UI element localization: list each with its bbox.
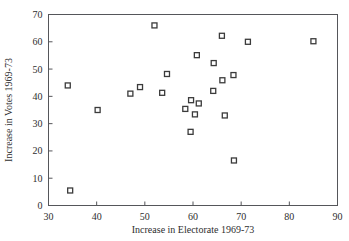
data-point bbox=[311, 39, 316, 44]
data-point bbox=[164, 71, 169, 76]
data-point bbox=[65, 83, 70, 88]
scatter-plot-figure: 30405060708090 010203040506070 Increase … bbox=[0, 0, 349, 241]
y-axis-title: Increase in Votes 1969-73 bbox=[3, 58, 14, 162]
data-point bbox=[189, 98, 194, 103]
data-point-group bbox=[65, 23, 316, 193]
data-point bbox=[152, 23, 157, 28]
data-point bbox=[196, 101, 201, 106]
data-point bbox=[95, 108, 100, 113]
data-point bbox=[192, 112, 197, 117]
y-tick-label: 10 bbox=[33, 173, 43, 184]
y-tick-label: 40 bbox=[33, 91, 43, 102]
x-tick-label: 90 bbox=[333, 211, 343, 222]
x-tick-label: 60 bbox=[188, 211, 198, 222]
x-tick-label: 50 bbox=[140, 211, 150, 222]
data-point bbox=[211, 61, 216, 66]
y-axis-ticks bbox=[49, 15, 53, 206]
data-point bbox=[188, 129, 193, 134]
data-point bbox=[219, 33, 224, 38]
data-point bbox=[211, 88, 216, 93]
data-point bbox=[160, 90, 165, 95]
data-point bbox=[194, 53, 199, 58]
x-tick-label: 30 bbox=[44, 211, 54, 222]
y-tick-label: 30 bbox=[33, 118, 43, 129]
x-axis-ticks bbox=[49, 202, 338, 206]
y-axis-tick-labels: 010203040506070 bbox=[33, 9, 43, 211]
y-tick-label: 20 bbox=[33, 145, 43, 156]
data-point bbox=[68, 188, 73, 193]
x-axis-title: Increase in Electorate 1969-73 bbox=[132, 224, 254, 235]
y-tick-label: 50 bbox=[33, 64, 43, 75]
data-point bbox=[220, 78, 225, 83]
data-point bbox=[231, 73, 236, 78]
data-point bbox=[183, 106, 188, 111]
data-point bbox=[128, 91, 133, 96]
data-point bbox=[222, 113, 227, 118]
y-tick-label: 70 bbox=[33, 9, 43, 20]
x-tick-label: 80 bbox=[284, 211, 294, 222]
x-tick-label: 40 bbox=[92, 211, 102, 222]
x-axis-tick-labels: 30405060708090 bbox=[44, 211, 343, 222]
data-point bbox=[138, 85, 143, 90]
y-tick-label: 60 bbox=[33, 36, 43, 47]
chart-canvas: 30405060708090 010203040506070 Increase … bbox=[0, 0, 349, 241]
data-point bbox=[231, 158, 236, 163]
y-tick-label: 0 bbox=[38, 200, 43, 211]
data-point bbox=[245, 39, 250, 44]
x-tick-label: 70 bbox=[236, 211, 246, 222]
plot-frame bbox=[49, 15, 338, 206]
